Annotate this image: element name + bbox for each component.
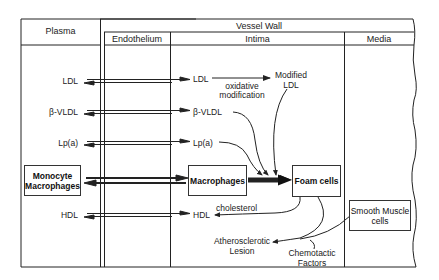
chemotactic-factors-label: Chemotactic Factors bbox=[283, 248, 341, 268]
smooth-muscle-label: Smooth Muscle bbox=[351, 206, 410, 216]
intima-hdl-label: HDL bbox=[193, 210, 210, 220]
macrophages-box: Macrophages bbox=[188, 165, 247, 196]
monocyte-label: Monocyte bbox=[33, 171, 73, 181]
header-endothelium: Endothelium bbox=[104, 34, 170, 44]
intima-lpa-label: Lp(a) bbox=[193, 138, 213, 148]
header-intima: Intima bbox=[171, 34, 344, 44]
atherosclerotic-lesion-label: Atherosclerotic Lesion bbox=[210, 236, 274, 256]
cells-label: cells bbox=[371, 216, 388, 226]
transport-arrows bbox=[84, 77, 190, 219]
header-media: Media bbox=[345, 34, 413, 44]
plasma-ldl-label: LDL bbox=[40, 76, 78, 86]
header-plasma: Plasma bbox=[21, 26, 100, 36]
monocyte-macrophages-box: Monocyte Macrophages bbox=[24, 165, 81, 196]
foam-cells-box: Foam cells bbox=[292, 165, 341, 197]
cholesterol-label: cholesterol bbox=[216, 203, 257, 213]
plasma-bvldl-label: β-VLDL bbox=[30, 107, 78, 117]
intima-bvldl-label: β-VLDL bbox=[193, 107, 222, 117]
oxidative-modification-label: oxidative modification bbox=[210, 82, 274, 100]
smooth-muscle-cells-box: Smooth Muscle cells bbox=[349, 200, 411, 231]
intima-arrows bbox=[212, 78, 350, 249]
header-vessel-wall: Vessel Wall bbox=[104, 21, 414, 31]
plasma-lpa-label: Lp(a) bbox=[30, 138, 78, 148]
macrophages-label-line: Macrophages bbox=[25, 181, 80, 191]
plasma-hdl-label: HDL bbox=[40, 210, 78, 220]
intima-ldl-label: LDL bbox=[193, 74, 209, 84]
modified-ldl-label: Modified LDL bbox=[270, 70, 312, 90]
